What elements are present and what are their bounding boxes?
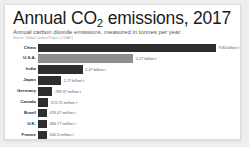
- bar[interactable]: [38, 120, 47, 129]
- bar-row[interactable]: U.S.A.5.27 billion t: [5, 54, 240, 64]
- bar-row[interactable]: Germany799.37 million t: [5, 87, 240, 97]
- chart-source-note: Source: Global Carbon Project (CDIAC): [13, 36, 73, 40]
- bar-category-label: India: [5, 66, 36, 72]
- chart-card: Annual CO2 emissions, 2017 Annual carbon…: [4, 4, 241, 140]
- bar-row[interactable]: Japan1.27 billion t: [5, 76, 240, 86]
- bar[interactable]: [38, 98, 48, 107]
- bar-row[interactable]: Brazil476.07 million t: [5, 108, 240, 118]
- bar-value-label: 476.07 million t: [50, 110, 76, 115]
- bar-value-label: 1.27 billion t: [63, 78, 84, 83]
- bar[interactable]: [38, 87, 52, 96]
- bar-row[interactable]: Canada572.75 million t: [5, 98, 240, 108]
- bar[interactable]: [38, 65, 83, 74]
- bar-value-label: 384.77 million t: [50, 121, 76, 126]
- bar-value-label: 572.75 million t: [51, 100, 77, 105]
- bar-category-label: U.S.A.: [5, 55, 36, 61]
- bar-category-label: China: [5, 45, 36, 51]
- bar-category-label: Canada: [5, 99, 36, 105]
- bar-category-label: Germany: [5, 88, 36, 94]
- bar[interactable]: [38, 44, 216, 53]
- bar-value-label: 340.3 million t: [50, 132, 74, 137]
- bar[interactable]: [38, 54, 133, 63]
- chart-title-subscript: 2: [97, 17, 103, 29]
- bar-value-label: 2.47 billion t: [85, 67, 106, 72]
- bar[interactable]: [38, 76, 61, 85]
- bar-chart-plot-area: China9.84 billion tU.S.A.5.27 billion tI…: [5, 42, 240, 140]
- bar-row[interactable]: China9.84 billion t: [5, 43, 240, 53]
- screenshot-root: Annual CO2 emissions, 2017 Annual carbon…: [0, 0, 249, 147]
- bar-category-label: U.K.: [5, 121, 36, 127]
- bar-row[interactable]: France340.3 million t: [5, 130, 240, 140]
- page-title: Annual CO2 emissions, 2017: [13, 9, 231, 30]
- bar-category-label: Japan: [5, 77, 36, 83]
- bar-category-label: Brazil: [5, 110, 36, 116]
- bar-value-label: 799.37 million t: [55, 89, 81, 94]
- chart-title-suffix: emissions, 2017: [103, 8, 231, 28]
- bar-category-label: France: [5, 132, 36, 138]
- bar-value-label: 9.84 billion t: [219, 45, 240, 50]
- chart-title-prefix: Annual CO: [13, 8, 97, 28]
- bar[interactable]: [38, 109, 47, 118]
- bar[interactable]: [38, 131, 47, 140]
- bar-value-label: 5.27 billion t: [136, 56, 157, 61]
- chart-subtitle: Annual carbon dioxide emissions, measure…: [13, 29, 180, 36]
- bar-row[interactable]: U.K.384.77 million t: [5, 119, 240, 129]
- bar-row[interactable]: India2.47 billion t: [5, 65, 240, 75]
